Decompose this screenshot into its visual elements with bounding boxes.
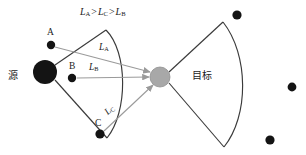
left-wavefront bbox=[55, 30, 123, 138]
target-label: 目标 bbox=[192, 71, 212, 81]
source-label: 源 bbox=[8, 71, 18, 81]
diagram-svg bbox=[0, 0, 306, 155]
path-length-label-b: LB bbox=[89, 63, 98, 73]
path-length-label-a: LA bbox=[99, 43, 109, 53]
scatterer-point-b bbox=[68, 74, 76, 82]
point-label-b: B bbox=[69, 62, 75, 72]
inequality-lb-sub: B bbox=[121, 10, 125, 17]
stray-dot bbox=[265, 135, 274, 144]
figure-canvas: LA>LC>LB 源 目标 A B C LA LB LC bbox=[0, 0, 306, 155]
stray-dot bbox=[288, 83, 297, 92]
target-node bbox=[150, 67, 170, 87]
source-node bbox=[33, 60, 57, 84]
scatterer-point-a bbox=[47, 41, 55, 49]
point-label-c: C bbox=[95, 119, 101, 129]
inequality-gt1: > bbox=[91, 6, 97, 17]
scatterer-point-c bbox=[95, 129, 104, 138]
stray-dot bbox=[232, 10, 241, 19]
right-wavefront bbox=[169, 22, 243, 147]
ray-group bbox=[55, 47, 153, 131]
inequality-gt2: > bbox=[109, 6, 115, 17]
ray-b bbox=[77, 77, 149, 78]
path-b-subscript: B bbox=[94, 65, 98, 72]
inequality-lc-sub: C bbox=[104, 10, 108, 17]
point-label-a: A bbox=[47, 28, 54, 38]
path-a-subscript: A bbox=[104, 45, 109, 52]
inequality-la-sub: A bbox=[86, 10, 91, 17]
inequality-caption: LA>LC>LB bbox=[80, 7, 126, 18]
